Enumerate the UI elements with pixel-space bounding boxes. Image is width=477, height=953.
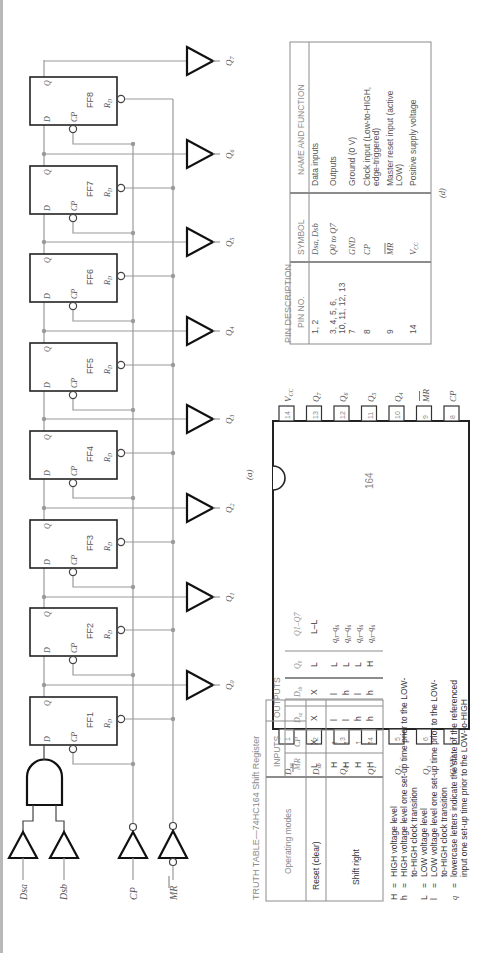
column-header-5: Q1–Q7: [293, 611, 302, 636]
and-input-a-wire: [23, 805, 33, 832]
legend-symbol: H: [389, 894, 399, 900]
header-inputs: INPUTS: [272, 736, 282, 768]
flip-flop-ff2: DQCPFF2RD: [30, 608, 175, 677]
q2-output-label: Q2: [224, 504, 235, 514]
q1-output-label: Q1: [224, 593, 235, 603]
pin-description-row: 7GNDGround (0 V): [347, 137, 357, 334]
pin-symbol: GND: [347, 236, 357, 255]
pin-symbol: Q0 to Q7: [328, 223, 338, 255]
output-buffer-q3: Q3: [42, 405, 235, 433]
pin-no: 10, 11, 12, 13: [337, 282, 347, 334]
flip-flop-label: FF2: [85, 623, 95, 639]
pin-number: 9: [422, 415, 429, 419]
header-operating-modes: Operating modes: [283, 809, 293, 874]
flip-flop-ff5: DQCPFF5RD: [30, 343, 175, 412]
flip-flop-ff6: DQCPFF6RD: [30, 254, 175, 323]
d-input-label: D: [43, 293, 52, 300]
d-input-label: D: [43, 382, 52, 389]
legend-item-L: L=LOW voltage level: [419, 808, 429, 900]
header-pin-no: PIN NO.: [296, 296, 306, 328]
column-header-0: MR: [293, 758, 302, 771]
pin-function: edge-triggered): [371, 128, 381, 186]
legend-symbol: q: [449, 895, 459, 900]
output-buffer-q2: Q2: [42, 494, 235, 522]
legend-text: LOW voltage level one set-up time prior …: [429, 680, 439, 877]
pin-description-row: 14VCCPositive supply voltage: [408, 99, 419, 334]
cell: ↑: [353, 741, 363, 745]
pin-description-row: 9MRMaster reset input (activeLOW): [385, 90, 404, 334]
cell: L: [309, 662, 319, 667]
dsb-input-buffer: [50, 832, 78, 858]
legend-symbol: L: [419, 895, 429, 900]
legend-text: lowercase letters indicate the state of …: [449, 680, 459, 877]
cell: X: [309, 689, 319, 695]
q-output-label: Q: [43, 169, 52, 175]
flip-flop-label: FF1: [85, 712, 95, 728]
pin-9: 9MR: [417, 389, 432, 421]
cell: H: [329, 762, 339, 768]
pin-description-row: 1, 2Dsa, DsbData inputs: [310, 143, 320, 334]
q6-output-label: Q6: [224, 150, 235, 160]
cp-input-label: CP: [70, 378, 79, 388]
pin-no: 9: [385, 329, 395, 334]
header-outputs: OUTPUTS: [272, 677, 282, 718]
pin-function: Ground (0 V): [347, 137, 357, 186]
pin-14: 14VCC: [279, 389, 294, 421]
dsa-label: Dsa: [18, 884, 29, 901]
mr-input-bubble: [170, 859, 177, 866]
cell: L: [341, 662, 351, 667]
pin-description-row: 3, 4, 5, 6,10, 11, 12, 13Q0 to Q7Outputs: [328, 156, 347, 334]
q-output-label: Q: [43, 434, 52, 440]
pin-function: Outputs: [328, 156, 338, 186]
legend-text: LOW voltage level: [419, 808, 429, 877]
cell: L: [309, 763, 319, 768]
flip-flop-ff8: DQCPFF8RD: [30, 77, 173, 146]
cell: l: [353, 693, 363, 695]
flip-flop-label: FF7: [85, 181, 95, 197]
legend-text: input one set-up time prior to the LOW-t…: [459, 699, 469, 877]
cell: l: [329, 719, 339, 721]
output-buffer-q4: Q4: [42, 317, 235, 345]
cp-inverter-bubble: [130, 824, 137, 831]
pin-description-title: PIN DESCRIPTION: [283, 264, 293, 343]
flip-flop-ff4: DQCPFF4RD: [30, 431, 175, 500]
legend-symbol: h: [399, 895, 409, 900]
cell: h: [365, 716, 375, 721]
cell: X: [309, 739, 319, 745]
pin-name: VCC: [283, 389, 294, 402]
pin-symbol: VCC: [408, 242, 419, 255]
truth-table-legend: H=HIGH voltage levelh=HIGH voltage level…: [389, 678, 469, 900]
pin-name: Q6: [338, 393, 349, 403]
flip-flop-label: FF5: [85, 358, 95, 374]
flip-flop-label: FF3: [85, 535, 95, 551]
pin-function: Positive supply voltage: [408, 99, 418, 186]
legend-equals: =: [419, 883, 429, 888]
cell: ↑: [341, 741, 351, 745]
q-output-label: Q: [43, 523, 52, 529]
cell: L: [329, 662, 339, 667]
output-buffer-q0: Q0: [42, 671, 235, 699]
mr-output-bubble: [170, 823, 177, 830]
q-output-label: Q: [43, 611, 52, 617]
pin-8: 8CP: [444, 390, 459, 421]
header-name-function: NAME AND FUNCTION: [296, 84, 306, 175]
cell: h: [353, 716, 363, 721]
and-input-b-wire: [56, 805, 64, 832]
pin-function: LOW): [394, 164, 404, 186]
pin-description-table: PIN DESCRIPTION PIN NO. SYMBOL NAME AND …: [283, 42, 447, 344]
figure-caption-d: (d): [437, 188, 447, 198]
q-output-label: Q: [43, 80, 52, 86]
mode-reset: Reset (clear): [311, 841, 321, 890]
pin-name: CP: [448, 390, 458, 402]
cell: L: [353, 662, 363, 667]
pin-number: 3: [339, 737, 346, 741]
pin-10: 10Q4: [389, 393, 404, 422]
ic-part-number: 164: [364, 472, 375, 489]
pin-11: 11Q5: [362, 393, 377, 422]
cp-input-label: CP: [70, 112, 79, 122]
truth-table-title: TRUTH TABLE—74HC164 Shift Register: [251, 736, 261, 900]
pin-number: 13: [312, 411, 319, 419]
dsa-input-buffer: [9, 832, 37, 858]
d-input-label: D: [43, 116, 52, 123]
legend-equals: =: [429, 883, 439, 888]
